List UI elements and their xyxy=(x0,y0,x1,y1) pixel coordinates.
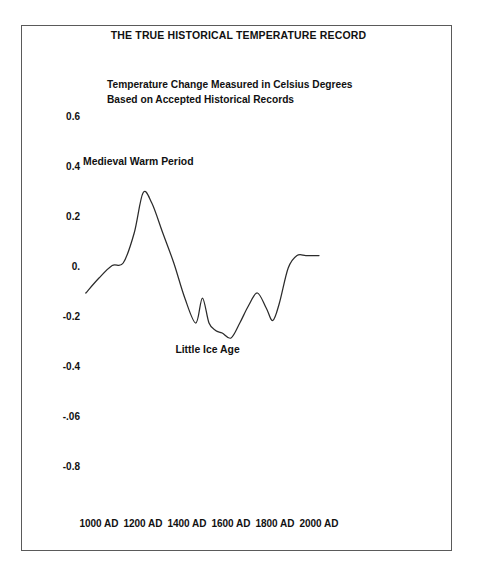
x-axis-tick-label: 2000 AD xyxy=(289,518,349,529)
y-axis-tick-label: 0.6 xyxy=(34,111,80,122)
chart-subtitle: Temperature Change Measured in Celsius D… xyxy=(107,78,353,107)
chart-page: THE TRUE HISTORICAL TEMPERATURE RECORD T… xyxy=(0,0,477,578)
y-axis-tick-label: -0.4 xyxy=(34,361,80,372)
y-axis-tick-label: 0.2 xyxy=(34,211,80,222)
y-axis-tick-label: 0.4 xyxy=(34,161,80,172)
chart-subtitle-line-1: Temperature Change Measured in Celsius D… xyxy=(107,78,353,93)
y-axis-tick-label: -0.8 xyxy=(34,461,80,472)
y-axis-tick-label: 0. xyxy=(34,261,80,272)
chart-annotation-label: Medieval Warm Period xyxy=(83,156,193,167)
y-axis-tick-label: -0.2 xyxy=(34,311,80,322)
chart-subtitle-line-2: Based on Accepted Historical Records xyxy=(107,93,353,108)
chart-title: THE TRUE HISTORICAL TEMPERATURE RECORD xyxy=(0,29,477,41)
chart-annotation-label: Little Ice Age xyxy=(175,344,239,355)
y-axis-tick-label: -.06 xyxy=(34,411,80,422)
